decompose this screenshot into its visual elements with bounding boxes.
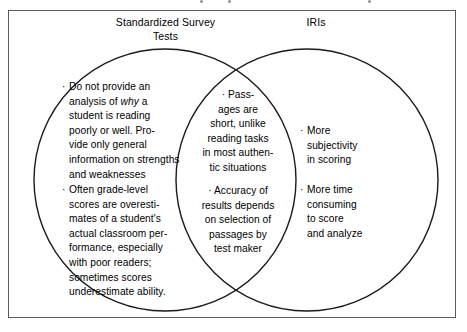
overlap-bullet-2: · Accuracy of results depends on selecti… xyxy=(194,184,282,257)
bullet-dot-icon: · xyxy=(62,80,69,95)
bullet-dot-icon: · xyxy=(208,185,211,196)
left-circle-bullet-1-text: Do not provide an analysis of why a stud… xyxy=(69,80,196,182)
right-circle-bullet-2: · More time consuming to score and analy… xyxy=(300,183,400,241)
artifact-mark xyxy=(368,0,371,3)
bullet-1-emphasis: why xyxy=(121,96,139,107)
left-circle-bullet-2: · Often grade-level scores are overesti-… xyxy=(62,183,196,300)
bullet-dot-icon: · xyxy=(300,124,307,139)
overlap-bullet-2-text: Accuracy of results depends on selection… xyxy=(202,185,275,254)
venn-header-left: Standardized Survey Tests xyxy=(88,15,243,43)
artifact-mark xyxy=(228,0,231,3)
left-circle-bullet-2-text: Often grade-level scores are overesti- m… xyxy=(69,183,196,300)
right-circle-bullet-2-text: More time consuming to score and analyze xyxy=(307,183,400,241)
right-circle-bullet-1-text: More subjectivity in scoring xyxy=(307,124,400,168)
bullet-dot-icon: · xyxy=(62,183,69,198)
bullet-1-post: a student is reading poorly or well. Pro… xyxy=(69,96,180,180)
bullet-dot-icon: · xyxy=(300,183,307,198)
overlap-bullet-1: · Pass- ages are short, unlike reading t… xyxy=(194,88,282,176)
venn-header-right: IRIs xyxy=(268,15,364,29)
left-circle-bullet-1: · Do not provide an analysis of why a st… xyxy=(62,80,196,182)
page-top-text-artifact xyxy=(0,0,467,6)
overlap-bullet-1-text: Pass- ages are short, unlike reading tas… xyxy=(203,89,274,173)
artifact-mark xyxy=(200,0,203,3)
bullet-dot-icon: · xyxy=(222,89,225,100)
right-circle-bullet-1: · More subjectivity in scoring xyxy=(300,124,400,168)
